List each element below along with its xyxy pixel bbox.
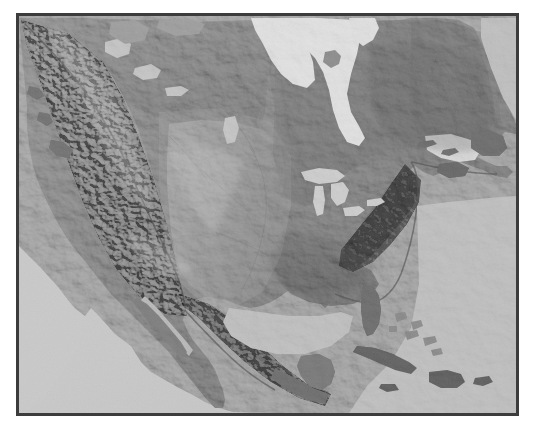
figure-caption — [16, 418, 519, 428]
relief-map-image — [19, 16, 516, 413]
page-root — [0, 0, 537, 429]
map-frame — [16, 13, 519, 416]
